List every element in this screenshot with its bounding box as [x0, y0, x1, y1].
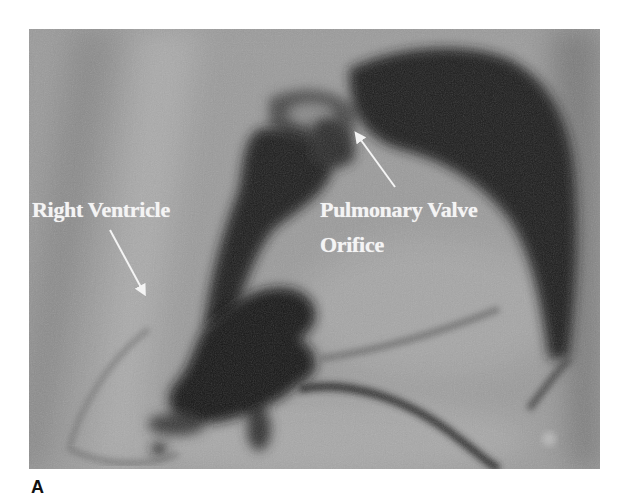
- panel-label: A: [31, 478, 44, 496]
- orifice-label: Orifice: [320, 233, 384, 257]
- angiogram-image: Right Ventricle Pulmonary Valve Orifice: [29, 29, 600, 469]
- pulmonary-valve-label: Pulmonary Valve: [320, 198, 477, 222]
- film-grain: [29, 29, 600, 469]
- angiogram-graphic: [29, 29, 600, 469]
- right-ventricle-label: Right Ventricle: [32, 198, 170, 222]
